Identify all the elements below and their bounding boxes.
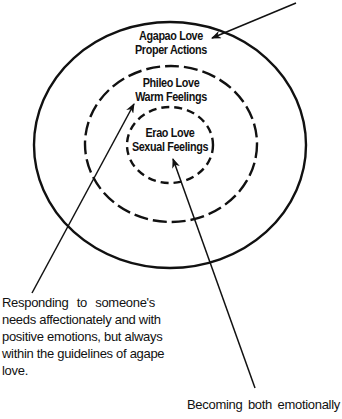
caption-line: love. xyxy=(2,362,155,379)
caption-line: within the guidelines of agape xyxy=(2,345,155,362)
caption-line: needs affectionately and with xyxy=(2,311,155,328)
erao-description: Becoming both emotionally xyxy=(187,396,340,413)
erao-arrow xyxy=(173,159,255,388)
agapao-arrow xyxy=(212,3,296,38)
caption-line: positive emotions, but always xyxy=(2,328,155,345)
phileo-label: Phileo Love Warm Feelings xyxy=(126,76,216,104)
agapao-label: Agapao Love Proper Actions xyxy=(126,29,216,57)
agapao-title: Agapao Love xyxy=(126,29,216,43)
erao-title: Erao Love xyxy=(125,126,215,140)
phileo-subtitle: Warm Feelings xyxy=(126,90,216,104)
caption-line: Becoming both emotionally xyxy=(187,396,340,413)
phileo-description: Responding to someone's needs affectiona… xyxy=(2,294,155,379)
phileo-title: Phileo Love xyxy=(126,76,216,90)
erao-subtitle: Sexual Feelings xyxy=(125,140,215,154)
erao-label: Erao Love Sexual Feelings xyxy=(125,126,215,154)
agapao-subtitle: Proper Actions xyxy=(126,43,216,57)
caption-line: Responding to someone's xyxy=(2,294,155,311)
